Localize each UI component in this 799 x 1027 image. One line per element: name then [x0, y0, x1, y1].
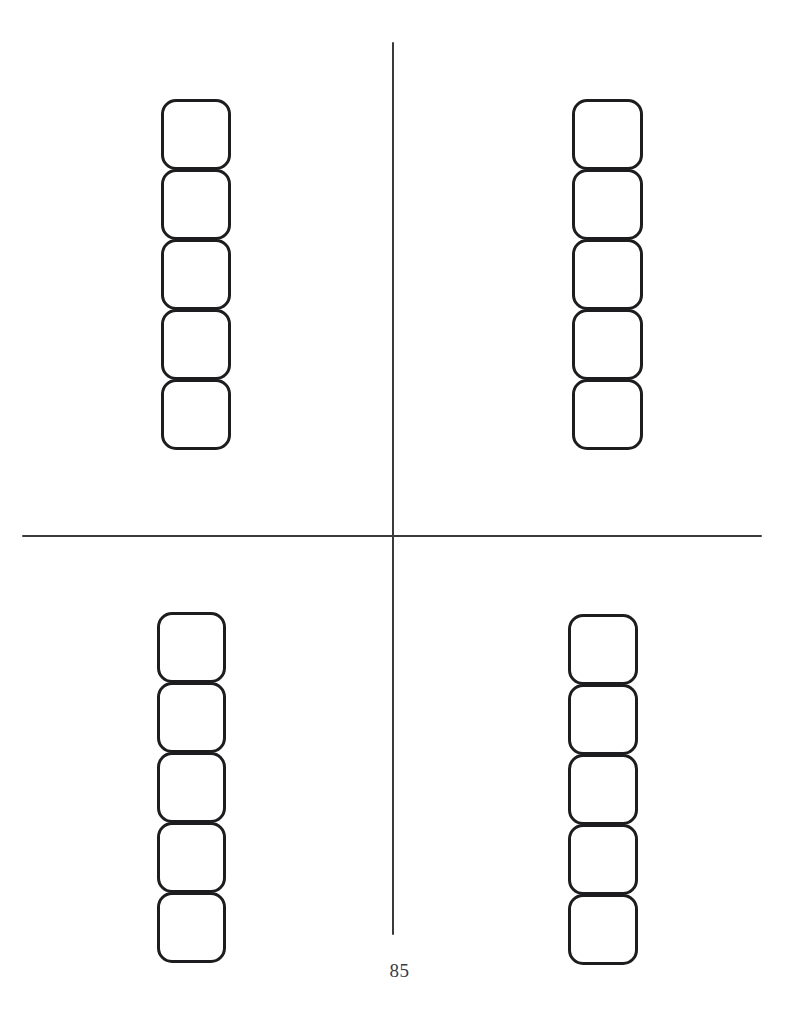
answer-box[interactable]: [161, 169, 231, 240]
answer-box[interactable]: [157, 892, 226, 963]
answer-box-stack-top-left: [161, 99, 231, 450]
worksheet-page: 85: [0, 0, 799, 1027]
answer-box[interactable]: [568, 824, 638, 895]
answer-box[interactable]: [161, 99, 231, 170]
answer-box-stack-bottom-left: [157, 612, 226, 963]
answer-box[interactable]: [161, 379, 231, 450]
answer-box[interactable]: [568, 684, 638, 755]
answer-box[interactable]: [572, 239, 643, 310]
answer-box[interactable]: [572, 169, 643, 240]
horizontal-divider-line: [22, 535, 762, 537]
page-number: 85: [0, 960, 799, 982]
answer-box-stack-bottom-right: [568, 614, 638, 965]
answer-box[interactable]: [157, 752, 226, 823]
answer-box[interactable]: [572, 309, 643, 380]
answer-box[interactable]: [161, 309, 231, 380]
answer-box[interactable]: [572, 379, 643, 450]
answer-box[interactable]: [568, 754, 638, 825]
answer-box[interactable]: [157, 682, 226, 753]
answer-box[interactable]: [157, 612, 226, 683]
answer-box[interactable]: [161, 239, 231, 310]
vertical-divider-line: [392, 42, 394, 935]
answer-box[interactable]: [568, 894, 638, 965]
answer-box-stack-top-right: [572, 99, 643, 450]
answer-box[interactable]: [568, 614, 638, 685]
answer-box[interactable]: [157, 822, 226, 893]
answer-box[interactable]: [572, 99, 643, 170]
